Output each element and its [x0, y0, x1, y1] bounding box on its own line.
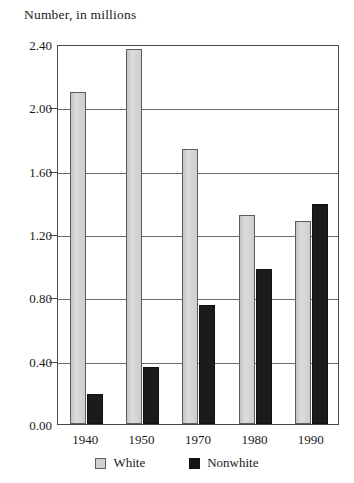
x-axis-tick-label-1990: 1990 — [283, 432, 339, 448]
bar-nonwhite-1990 — [312, 204, 328, 424]
bar-group — [227, 46, 283, 424]
bar-white-1940 — [70, 92, 86, 425]
y-axis-tick-label: 1.60 — [6, 166, 52, 179]
y-axis-tick-label: 2.40 — [6, 39, 52, 52]
legend-item-nonwhite[interactable]: Nonwhite — [189, 455, 258, 471]
bar-group — [171, 46, 227, 424]
x-axis-tick-label-1940: 1940 — [57, 432, 113, 448]
nonwhite-swatch-icon — [189, 458, 200, 469]
bar-white-1980 — [239, 215, 255, 424]
x-axis-tick-label-1980: 1980 — [226, 432, 282, 448]
chart-title: Number, in millions — [24, 7, 136, 23]
bar-chart: Number, in millions 2.402.001.601.200.80… — [0, 0, 354, 483]
bar-nonwhite-1970 — [199, 305, 215, 424]
bar-white-1990 — [295, 221, 311, 424]
legend-item-white[interactable]: White — [95, 455, 145, 471]
bar-group — [284, 46, 340, 424]
y-axis-tick-mark — [49, 235, 57, 236]
legend-label: White — [113, 455, 145, 471]
y-axis-tick-label: 1.20 — [6, 229, 52, 242]
y-axis-tick-label: 2.00 — [6, 102, 52, 115]
legend-label: Nonwhite — [207, 455, 258, 471]
plot-area — [57, 45, 339, 425]
bar-nonwhite-1950 — [143, 367, 159, 424]
y-axis-tick-mark — [49, 298, 57, 299]
y-axis-tick-label: 0.80 — [6, 292, 52, 305]
y-axis-tick-mark — [49, 172, 57, 173]
bar-nonwhite-1980 — [256, 269, 272, 424]
y-axis-tick-mark — [49, 362, 57, 363]
x-axis-tick-label-1970: 1970 — [170, 432, 226, 448]
bar-white-1950 — [126, 49, 142, 424]
y-axis-tick-mark — [49, 108, 57, 109]
bar-white-1970 — [182, 149, 198, 425]
bar-nonwhite-1940 — [87, 394, 103, 424]
x-axis-tick-label-1950: 1950 — [113, 432, 169, 448]
white-swatch-icon — [95, 458, 106, 469]
y-axis-tick-label: 0.00 — [6, 419, 52, 432]
chart-legend: WhiteNonwhite — [0, 455, 354, 471]
bar-group — [114, 46, 170, 424]
bar-group — [58, 46, 114, 424]
y-axis-tick-label: 0.40 — [6, 356, 52, 369]
